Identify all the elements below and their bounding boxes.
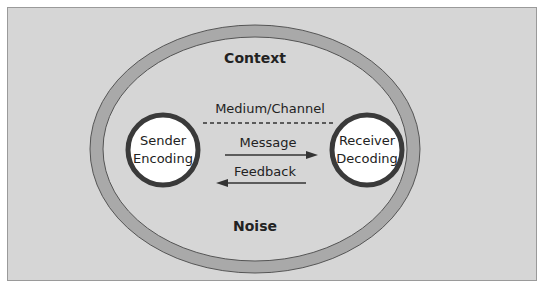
sender-line2: Encoding (123, 150, 203, 168)
sender-line1: Sender (123, 132, 203, 150)
receiver-label: Receiver Decoding (327, 132, 407, 168)
receiver-line2: Decoding (327, 150, 407, 168)
feedback-label: Feedback (215, 164, 315, 179)
channel-label: Medium/Channel (195, 101, 345, 116)
message-label: Message (218, 135, 318, 150)
receiver-line1: Receiver (327, 132, 407, 150)
sender-label: Sender Encoding (123, 132, 203, 168)
noise-label: Noise (205, 218, 305, 234)
context-label: Context (205, 50, 305, 66)
